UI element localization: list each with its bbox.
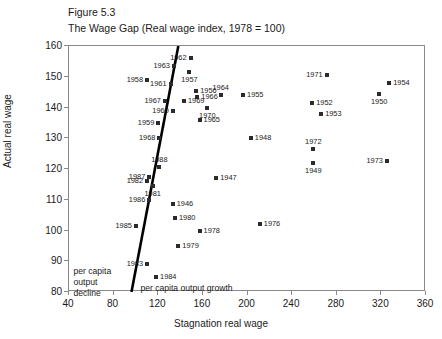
data-point-label: 1980 <box>179 214 195 221</box>
data-point <box>194 89 198 93</box>
data-point <box>172 64 176 68</box>
data-point <box>249 136 253 140</box>
data-point <box>241 93 245 97</box>
y-tick-label: 150 <box>45 70 62 81</box>
y-tick-label: 160 <box>45 40 62 51</box>
y-tick-label: 100 <box>45 224 62 235</box>
data-point <box>145 179 149 183</box>
data-point <box>189 56 193 60</box>
x-tick-mark <box>113 291 114 295</box>
data-point-label: 1953 <box>325 110 341 117</box>
data-point <box>377 92 381 96</box>
data-point <box>147 175 151 179</box>
y-tick-label: 90 <box>51 255 62 266</box>
data-point-label: 1988 <box>151 156 167 163</box>
data-point <box>176 244 180 248</box>
data-point <box>319 112 323 116</box>
data-point-label: 1971 <box>306 72 322 79</box>
y-tick-label: 140 <box>45 101 62 112</box>
x-tick-label: 120 <box>149 298 166 309</box>
annotation-decline-line-3: decline <box>73 288 111 299</box>
data-point-label: 1983 <box>127 261 143 268</box>
data-point-label: 1959 <box>138 119 154 126</box>
x-tick-label: 80 <box>107 298 118 309</box>
data-point <box>310 101 314 105</box>
data-point <box>171 202 175 206</box>
y-tick-label: 120 <box>45 163 62 174</box>
x-tick-label: 200 <box>238 298 255 309</box>
data-point <box>311 161 315 165</box>
data-point-label: 1976 <box>264 221 280 228</box>
x-tick-mark <box>425 291 426 295</box>
data-point <box>171 109 175 113</box>
x-tick-mark <box>380 291 381 295</box>
data-point-label: 1981 <box>144 190 160 197</box>
data-point <box>311 147 315 151</box>
data-point-label: 1984 <box>160 273 176 280</box>
x-tick-mark <box>247 291 248 295</box>
data-point-label: 1982 <box>127 178 143 185</box>
data-point-label: 1950 <box>371 98 387 105</box>
data-point-label: 1955 <box>247 91 263 98</box>
data-point <box>134 224 138 228</box>
y-tick-label: 130 <box>45 132 62 143</box>
data-point-label: 1960 <box>152 107 168 114</box>
data-point <box>157 165 161 169</box>
data-point-label: 1973 <box>367 158 383 165</box>
data-point-label: 1985 <box>115 222 131 229</box>
data-point-label: 1961 <box>150 81 166 88</box>
data-point <box>258 222 262 226</box>
data-point-label: 1954 <box>393 79 409 86</box>
data-point-label: 1965 <box>204 116 220 123</box>
data-point <box>151 184 155 188</box>
x-tick-label: 240 <box>283 298 300 309</box>
data-point-label: 1958 <box>127 76 143 83</box>
plot-area: 1962196319571958196119711954195019561966… <box>68 45 425 291</box>
data-point <box>198 118 202 122</box>
data-point <box>387 81 391 85</box>
x-tick-label: 160 <box>194 298 211 309</box>
data-point-label: 1969 <box>188 98 204 105</box>
data-point-label: 1957 <box>181 76 197 83</box>
x-tick-mark <box>68 291 69 295</box>
data-point <box>182 99 186 103</box>
figure-number: Figure 5.3 <box>68 6 115 18</box>
data-point-label: 1946 <box>177 201 193 208</box>
annotation-output-growth: per capita output growth <box>140 283 232 294</box>
trend-line <box>69 46 426 292</box>
x-tick-label: 280 <box>327 298 344 309</box>
data-point-label: 1979 <box>182 242 198 249</box>
annotation-decline-line-2: output <box>73 277 111 288</box>
x-axis-label: Stagnation real wage <box>0 318 442 329</box>
annotation-output-decline: per capita output decline <box>73 266 111 299</box>
data-point-label: 1967 <box>144 98 160 105</box>
data-point <box>145 78 149 82</box>
data-point <box>145 262 149 266</box>
data-point <box>157 136 161 140</box>
x-tick-mark <box>336 291 337 295</box>
x-tick-label: 40 <box>62 298 73 309</box>
data-point-label: 1952 <box>316 99 332 106</box>
data-point <box>214 176 218 180</box>
data-point-label: 1986 <box>129 196 145 203</box>
data-point-label: 1963 <box>153 62 169 69</box>
data-point <box>169 82 173 86</box>
y-tick-label: 110 <box>46 193 62 204</box>
data-point-label: 1962 <box>170 55 186 62</box>
data-point <box>187 70 191 74</box>
data-point-label: 1978 <box>204 227 220 234</box>
data-point-label: 1949 <box>305 167 321 174</box>
annotation-decline-line-1: per capita <box>73 266 111 277</box>
data-point <box>205 106 209 110</box>
figure-title: The Wage Gap (Real wage index, 1978 = 10… <box>68 22 285 34</box>
y-axis-label: Actual real wage <box>2 94 13 168</box>
data-point <box>147 198 151 202</box>
y-tick-label: 80 <box>51 286 62 297</box>
data-point <box>154 275 158 279</box>
figure-container: Figure 5.3 The Wage Gap (Real wage index… <box>0 0 442 339</box>
data-point <box>156 121 160 125</box>
data-point <box>198 229 202 233</box>
data-point-label: 1948 <box>255 135 271 142</box>
x-tick-label: 360 <box>417 298 434 309</box>
data-point <box>325 73 329 77</box>
